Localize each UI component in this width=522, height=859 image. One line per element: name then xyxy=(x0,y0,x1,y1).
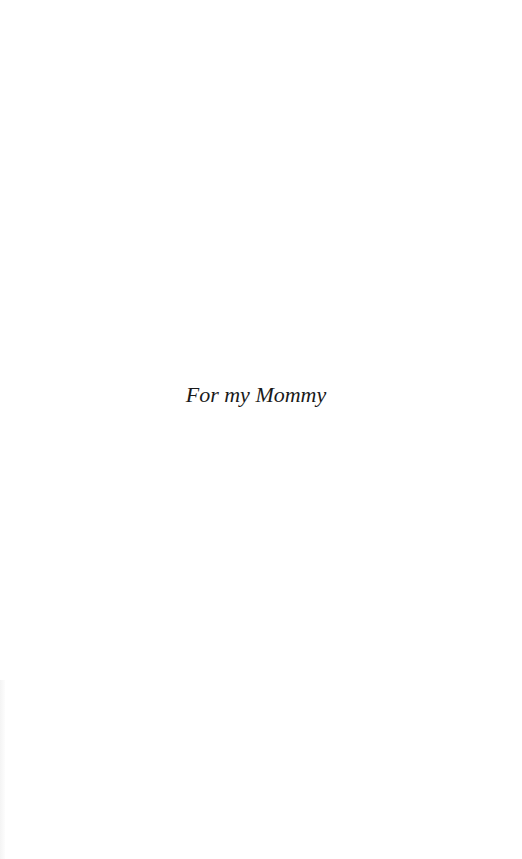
book-page: For my Mommy xyxy=(0,0,522,859)
scan-edge-shadow xyxy=(0,680,5,859)
dedication-text: For my Mommy xyxy=(0,382,512,408)
